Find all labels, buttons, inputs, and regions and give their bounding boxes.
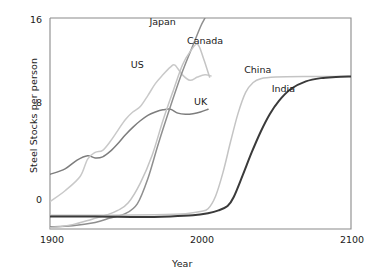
y-tick-8: 8	[16, 97, 42, 108]
y-tick-16: 16	[16, 14, 42, 25]
series-group	[50, 18, 351, 228]
x-tick-2000: 2000	[182, 234, 222, 245]
series-label-china: China	[244, 64, 271, 75]
y-tick-0: 0	[16, 194, 42, 205]
series-line-canada	[50, 44, 210, 228]
x-tick-2100: 2100	[332, 234, 372, 245]
y-axis-title: Steel Stocks per person	[28, 56, 39, 176]
series-label-japan: Japan	[149, 16, 176, 27]
x-tick-1900: 1900	[32, 234, 72, 245]
series-line-us	[50, 65, 211, 202]
x-axis-title: Year	[172, 258, 193, 269]
series-line-uk	[50, 109, 208, 174]
series-label-uk: UK	[194, 96, 207, 107]
series-label-india: India	[272, 83, 295, 94]
series-label-us: US	[131, 59, 144, 70]
steel-stocks-chart: Steel Stocks per person Year 16 8 0 1900…	[0, 0, 374, 276]
series-line-japan	[50, 18, 205, 227]
series-label-canada: Canada	[187, 35, 223, 46]
